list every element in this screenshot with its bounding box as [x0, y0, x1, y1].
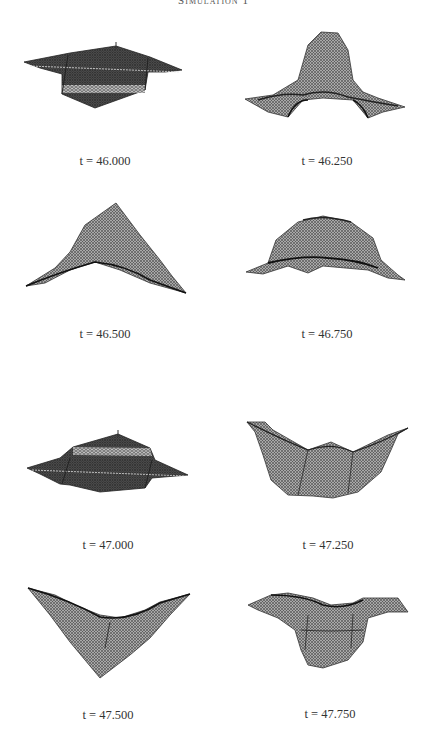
mesh-surface-bowl: [213, 400, 427, 580]
surface-plot-t46250: t = 46.250: [213, 0, 427, 180]
surface-plot-t47500: t = 47.500: [0, 570, 213, 734]
surface-plot-t47000: t = 47.000: [0, 400, 213, 580]
time-label: t = 47.750: [304, 707, 355, 722]
time-label: t = 46.000: [79, 154, 130, 169]
mesh-surface-peak: [213, 0, 427, 180]
time-label: t = 46.750: [301, 327, 352, 342]
time-label: t = 47.250: [302, 538, 353, 553]
surface-plot-t47750: t = 47.750: [213, 570, 427, 734]
mesh-surface-flat: [0, 0, 213, 180]
time-label: t = 47.000: [82, 538, 133, 553]
mesh-surface-flat: [0, 400, 213, 580]
time-label: t = 46.500: [79, 327, 130, 342]
time-label: t = 46.250: [301, 154, 352, 169]
surface-plot-t46000: t = 46.000: [0, 0, 213, 180]
surface-plot-t47250: t = 47.250: [213, 400, 427, 580]
time-label: t = 47.500: [82, 708, 133, 723]
surface-plot-t46500: t = 46.500: [0, 180, 213, 360]
surface-plot-t46750: t = 46.750: [213, 180, 427, 360]
